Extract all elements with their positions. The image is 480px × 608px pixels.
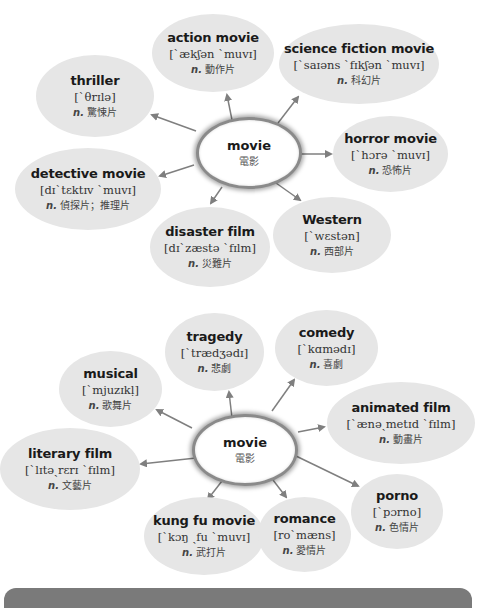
term: animated film (351, 400, 450, 416)
chinese: 科幻片 (351, 75, 381, 86)
phonetic: [ˋækʃən ˋmuvɪ] (169, 46, 257, 62)
node-thriller: thriller [ˋθrɪlə] n.驚悚片 (36, 55, 154, 137)
term: literary film (28, 446, 112, 462)
node-horror-movie: horror movie [ˋhɔrə ˋmuvɪ] n.恐怖片 (333, 116, 448, 192)
chinese: 偵探片；推理片 (60, 200, 130, 211)
bottom-banner-bar (4, 588, 472, 608)
translation: n.愛情片 (283, 543, 327, 558)
chinese: 歌舞片 (102, 400, 132, 411)
translation: n.動作片 (191, 62, 235, 77)
part-of-speech: n. (310, 246, 321, 257)
term: thriller (71, 73, 120, 89)
term: detective movie (31, 166, 146, 182)
phonetic: [ˋwɛstən] (304, 228, 359, 244)
phonetic: [roˋmæns] (273, 527, 335, 543)
translation: n.動畫片 (379, 432, 423, 447)
part-of-speech: n. (369, 165, 380, 176)
phonetic: [ˋkɔŋ ˏfu ˋmuvɪ] (158, 529, 251, 545)
node-musical: musical [ˋmjuzɪkḷ] n.歌舞片 (59, 351, 162, 427)
term: horror movie (344, 131, 437, 147)
term: kung fu movie (153, 513, 255, 529)
translation: n.歌舞片 (89, 398, 133, 413)
node-disaster-film: disaster film [dɪˋzæstə ˋfɪlm] n.災難片 (150, 207, 270, 287)
part-of-speech: n. (89, 400, 100, 411)
translation: n.文藝片 (48, 478, 92, 493)
phonetic: [ˋmjuzɪkḷ] (82, 382, 139, 398)
chinese: 動畫片 (393, 434, 423, 445)
translation: n.驚悚片 (73, 105, 117, 120)
node-action-movie: action movie [ˋækʃən ˋmuvɪ] n.動作片 (152, 14, 274, 92)
translation: n.偵探片；推理片 (46, 198, 130, 213)
phonetic: [ˋlɪtəˏrɛrɪ ˋfɪlm] (25, 462, 115, 478)
phonetic: [ˋtrædʒədɪ] (181, 345, 248, 361)
part-of-speech: n. (191, 64, 202, 75)
translation: n.災難片 (188, 256, 232, 271)
chinese: 悲劇 (211, 363, 231, 374)
part-of-speech: n. (337, 75, 348, 86)
center-node-movie: movie 電影 (192, 414, 298, 486)
phonetic: [dɪˋtɛktɪv ˋmuvɪ] (40, 182, 136, 198)
chinese: 色情片 (389, 522, 419, 533)
center-term: movie (223, 435, 267, 451)
phonetic: [ˋsaɪəns ˋfɪkʃən ˋmuvɪ] (294, 57, 425, 73)
node-science-fiction-movie: science fiction movie [ˋsaɪəns ˋfɪkʃən ˋ… (279, 24, 439, 104)
chinese: 武打片 (196, 547, 226, 558)
phonetic: [dɪˋzæstə ˋfɪlm] (164, 240, 256, 256)
term: romance (273, 511, 335, 527)
phonetic: [ˋθrɪlə] (74, 89, 115, 105)
node-romance: romance [roˋmæns] n.愛情片 (258, 497, 351, 572)
part-of-speech: n. (198, 363, 209, 374)
node-comedy: comedy [ˋkɑmədɪ] n.喜劇 (275, 310, 378, 386)
chinese: 喜劇 (323, 359, 343, 370)
phonetic: [ˋkɑmədɪ] (298, 341, 356, 357)
translation: n.武打片 (182, 545, 226, 560)
chinese: 災難片 (202, 258, 232, 269)
center-node-movie: movie 電影 (196, 117, 302, 189)
node-literary-film: literary film [ˋlɪtəˏrɛrɪ ˋfɪlm] n.文藝片 (0, 428, 140, 510)
node-kung-fu-movie: kung fu movie [ˋkɔŋ ˏfu ˋmuvɪ] n.武打片 (144, 497, 264, 575)
chinese: 文藝片 (62, 480, 92, 491)
node-tragedy: tragedy [ˋtrædʒədɪ] n.悲劇 (165, 313, 264, 391)
term: tragedy (187, 329, 243, 345)
translation: n.科幻片 (337, 73, 381, 88)
translation: n.悲劇 (198, 361, 232, 376)
chinese: 動作片 (205, 64, 235, 75)
part-of-speech: n. (379, 434, 390, 445)
node-animated-film: animated film [ˋænəˏmetɪd ˋfɪlm] n.動畫片 (327, 382, 475, 464)
part-of-speech: n. (188, 258, 199, 269)
phonetic: [ˋhɔrə ˋmuvɪ] (351, 147, 430, 163)
term: comedy (299, 325, 355, 341)
part-of-speech: n. (375, 522, 386, 533)
part-of-speech: n. (73, 107, 84, 118)
center-term: movie (227, 138, 271, 154)
node-detective-movie: detective movie [dɪˋtɛktɪv ˋmuvɪ] n.偵探片；… (15, 148, 161, 230)
part-of-speech: n. (48, 480, 59, 491)
chinese: 西部片 (324, 246, 354, 257)
chinese: 驚悚片 (87, 107, 117, 118)
translation: n.西部片 (310, 244, 354, 259)
center-translation: 電影 (235, 451, 255, 466)
translation: n.喜劇 (310, 357, 344, 372)
part-of-speech: n. (182, 547, 193, 558)
translation: n.恐怖片 (369, 163, 413, 178)
term: disaster film (165, 224, 255, 240)
phonetic: [ˋænəˏmetɪd ˋfɪlm] (347, 416, 456, 432)
term: porno (376, 488, 418, 504)
chinese: 恐怖片 (382, 165, 412, 176)
chinese: 愛情片 (296, 545, 326, 556)
term: Western (302, 212, 362, 228)
node-western: Western [ˋwɛstən] n.西部片 (273, 197, 391, 273)
node-porno: porno [ˋpɔrno] n.色情片 (351, 474, 443, 549)
center-translation: 電影 (239, 154, 259, 169)
translation: n.色情片 (375, 520, 419, 535)
phonetic: [ˋpɔrno] (373, 504, 421, 520)
part-of-speech: n. (46, 200, 57, 211)
part-of-speech: n. (283, 545, 294, 556)
term: science fiction movie (284, 41, 434, 57)
term: action movie (167, 30, 259, 46)
term: musical (83, 366, 138, 382)
part-of-speech: n. (310, 359, 321, 370)
